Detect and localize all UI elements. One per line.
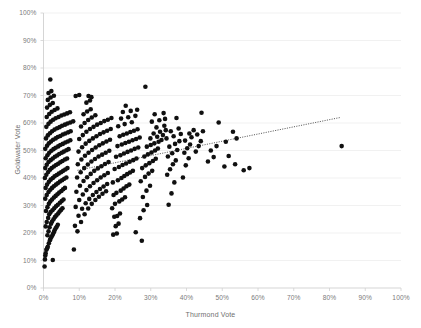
x-tick-label: 10%: [64, 294, 94, 301]
x-tick-label: 60%: [243, 294, 273, 301]
axis-lines: [41, 13, 402, 291]
x-tick-label: 50%: [207, 294, 237, 301]
x-tick-label: 100%: [386, 294, 416, 301]
y-tick-label: 80%: [7, 64, 37, 71]
y-tick-label: 90%: [7, 37, 37, 44]
scatter-chart: 0%10%20%30%40%50%60%70%80%90%100% 0%10%2…: [0, 0, 421, 328]
x-tick-label: 40%: [172, 294, 202, 301]
x-tick-label: 30%: [136, 294, 166, 301]
data-points: [42, 77, 344, 269]
x-tick-label: 90%: [350, 294, 380, 301]
x-tick-label: 70%: [279, 294, 309, 301]
y-tick-label: 70%: [7, 92, 37, 99]
y-axis-title: Goldwater Vote: [14, 105, 21, 195]
y-tick-label: 60%: [7, 119, 37, 126]
y-tick-label: 10%: [7, 257, 37, 264]
y-tick-label: 100%: [7, 9, 37, 16]
plot-area: [0, 0, 421, 328]
y-tick-label: 50%: [7, 147, 37, 154]
x-tick-label: 20%: [100, 294, 130, 301]
gridlines: [44, 13, 402, 288]
x-tick-label: 80%: [315, 294, 345, 301]
y-tick-label: 20%: [7, 229, 37, 236]
x-tick-label: 0%: [29, 294, 59, 301]
y-tick-label: 40%: [7, 174, 37, 181]
y-tick-label: 30%: [7, 202, 37, 209]
y-tick-label: 0%: [7, 284, 37, 291]
x-axis-title: Thurmond Vote: [0, 311, 421, 318]
